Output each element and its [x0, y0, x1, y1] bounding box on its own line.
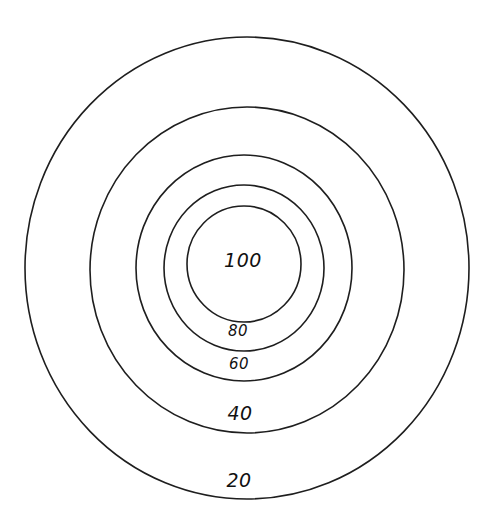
label-60: 60: [229, 355, 249, 373]
label-80: 80: [228, 322, 248, 340]
label-100: 100: [224, 249, 262, 271]
label-40: 40: [227, 402, 252, 424]
label-20: 20: [226, 469, 251, 491]
